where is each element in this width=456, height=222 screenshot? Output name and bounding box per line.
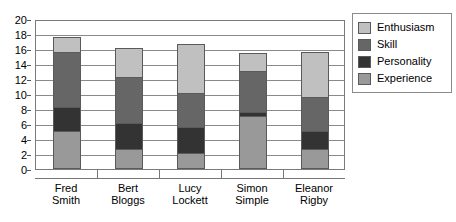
x-axis-line <box>35 178 345 179</box>
bar-stack <box>177 19 205 169</box>
y-axis-tick-label: 16 <box>15 45 27 56</box>
x-axis-label-line: Rigby <box>283 194 345 206</box>
bar-segment-skill <box>115 77 143 125</box>
bar-segment-experience <box>239 116 267 170</box>
legend-swatch-icon <box>358 73 371 85</box>
x-axis-label-line: Lockett <box>159 194 221 206</box>
y-axis-tick-label: 12 <box>15 75 27 86</box>
x-axis-label-line: Fred <box>35 182 97 194</box>
x-axis-label-line: Lucy <box>159 182 221 194</box>
y-axis-tick-label: 14 <box>15 60 27 71</box>
bar-segment-personality <box>301 131 329 151</box>
x-axis-separator <box>159 170 160 178</box>
legend-label: Personality <box>377 56 431 67</box>
y-axis-tick-label: 10 <box>15 90 27 101</box>
bar-segment-personality <box>177 127 205 154</box>
y-axis-tick-label: 20 <box>15 15 27 26</box>
x-axis-label-line: Smith <box>35 194 97 206</box>
y-axis-tick-mark <box>27 35 31 36</box>
x-axis-label-line: Simon <box>221 182 283 194</box>
bar-segment-experience <box>53 131 81 170</box>
bar-segment-enthusiasm <box>301 52 329 98</box>
bar-segment-personality <box>115 123 143 150</box>
stacked-bar-chart: 02468101214161820 FredSmithBertBloggsLuc… <box>0 0 456 222</box>
y-axis-tick-mark <box>27 95 31 96</box>
bar-segment-enthusiasm <box>53 37 81 53</box>
y-axis-tick-mark <box>27 155 31 156</box>
x-axis-label: SimonSimple <box>221 182 283 206</box>
bar-segment-skill <box>239 71 267 113</box>
bar-stack <box>239 19 267 169</box>
bar-segment-experience <box>115 149 143 169</box>
bar-segment-skill <box>301 97 329 132</box>
y-axis-tick-mark <box>27 110 31 111</box>
bar-segment-enthusiasm <box>239 53 267 71</box>
x-axis-separator <box>97 170 98 178</box>
y-axis-tick-mark <box>27 20 31 21</box>
x-axis-label-line: Bloggs <box>97 194 159 206</box>
y-axis-tick-mark <box>27 125 31 126</box>
legend-label: Enthusiasm <box>377 22 434 33</box>
bar-segment-enthusiasm <box>115 48 143 78</box>
bar-stack <box>301 19 329 169</box>
chart-legend: EnthusiasmSkillPersonalityExperience <box>352 13 452 93</box>
y-axis-tick-mark <box>27 50 31 51</box>
y-axis-tick-mark <box>27 140 31 141</box>
y-axis-tick-label: 18 <box>15 30 27 41</box>
x-axis-label: FredSmith <box>35 182 97 206</box>
bar-segment-enthusiasm <box>177 44 205 94</box>
bar-segment-personality <box>53 107 81 132</box>
bar-segment-experience <box>301 149 329 169</box>
bar-segment-experience <box>177 153 205 169</box>
legend-swatch-icon <box>358 56 371 68</box>
y-axis: 02468101214161820 <box>0 20 31 170</box>
legend-swatch-icon <box>358 22 371 34</box>
y-axis-tick-mark <box>27 170 31 171</box>
bar-stack <box>115 19 143 169</box>
legend-item: Experience <box>358 70 447 87</box>
x-axis-label: BertBloggs <box>97 182 159 206</box>
x-axis-label: LucyLockett <box>159 182 221 206</box>
x-axis-label-line: Simple <box>221 194 283 206</box>
x-axis-separator <box>221 170 222 178</box>
legend-label: Experience <box>377 73 432 84</box>
legend-item: Personality <box>358 53 447 70</box>
y-axis-tick-mark <box>27 65 31 66</box>
legend-label: Skill <box>377 39 397 50</box>
x-axis-separator <box>283 170 284 178</box>
x-axis: FredSmithBertBloggsLucyLockettSimonSimpl… <box>35 170 345 220</box>
legend-item: Enthusiasm <box>358 19 447 36</box>
x-axis-label-line: Eleanor <box>283 182 345 194</box>
plot-area <box>35 20 345 170</box>
legend-swatch-icon <box>358 39 371 51</box>
x-axis-label: EleanorRigby <box>283 182 345 206</box>
y-axis-tick-mark <box>27 80 31 81</box>
x-axis-label-line: Bert <box>97 182 159 194</box>
bar-segment-skill <box>53 52 81 108</box>
bar-segment-skill <box>177 93 205 128</box>
legend-item: Skill <box>358 36 447 53</box>
bar-stack <box>53 19 81 169</box>
